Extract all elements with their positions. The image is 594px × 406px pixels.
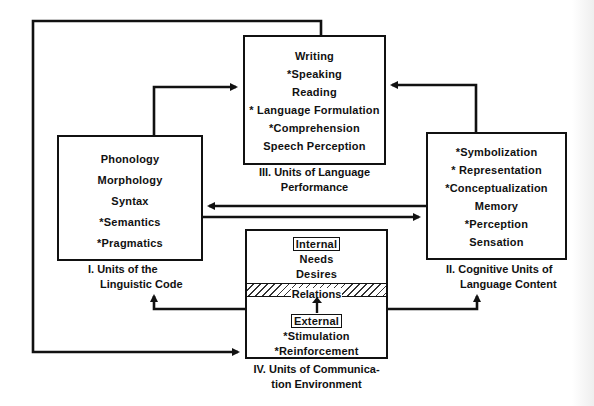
internal-section: Internal Needs Desires: [247, 237, 386, 282]
caption-line-1: III. Units of Language: [243, 165, 386, 180]
item-writing: Writing: [245, 47, 384, 65]
item-semantics: *Semantics: [59, 212, 201, 233]
item-reading: Reading: [245, 83, 384, 101]
caption-line-2: Language Content: [446, 277, 557, 292]
arrow-up-icon: [311, 297, 323, 313]
caption-line-1: IV. Units of Communica-: [245, 362, 388, 377]
item-syntax: Syntax: [59, 191, 201, 212]
caption-language-performance: III. Units of Language Performance: [243, 165, 386, 195]
linguistic-items: Phonology Morphology Syntax *Semantics *…: [59, 149, 201, 254]
item-stimulation: *Stimulation: [247, 329, 386, 344]
box-linguistic-code: Phonology Morphology Syntax *Semantics *…: [57, 135, 203, 261]
arrow-IV-to-I: [154, 296, 245, 309]
external-section: External *Stimulation *Reinforcement: [247, 314, 386, 359]
item-symbolization: *Symbolization: [428, 143, 565, 161]
caption-line-2: Performance: [243, 180, 386, 195]
box-language-performance: Writing *Speaking Reading * Language For…: [243, 35, 386, 165]
box-communication-environment: Internal Needs Desires Relations Externa…: [245, 229, 388, 359]
item-needs: Needs: [247, 252, 386, 267]
item-representation: * Representation: [428, 161, 565, 179]
relations-band: Relations: [247, 283, 386, 297]
item-language-formulation: * Language Formulation: [245, 101, 384, 119]
caption-line-2: Linguistic Code: [88, 277, 183, 292]
item-sensation: Sensation: [428, 233, 565, 251]
caption-communication-environment: IV. Units of Communica- tion Environment: [245, 362, 388, 392]
arrow-I-to-III: [154, 87, 236, 135]
caption-line-1: I. Units of the: [88, 262, 183, 277]
caption-line-1: II. Cognitive Units of: [446, 262, 557, 277]
item-speech-perception: Speech Perception: [245, 137, 384, 155]
caption-line-2: tion Environment: [245, 377, 388, 392]
item-reinforcement: *Reinforcement: [247, 344, 386, 359]
caption-linguistic-code: I. Units of the Linguistic Code: [88, 262, 183, 292]
performance-items: Writing *Speaking Reading * Language For…: [245, 47, 384, 155]
item-memory: Memory: [428, 197, 565, 215]
item-phonology: Phonology: [59, 149, 201, 170]
internal-heading: Internal: [293, 237, 340, 251]
item-conceptualization: *Conceptualization: [428, 179, 565, 197]
item-perception: *Perception: [428, 215, 565, 233]
arrow-II-to-III: [392, 85, 476, 132]
item-desires: Desires: [247, 267, 386, 282]
item-comprehension: *Comprehension: [245, 119, 384, 137]
item-morphology: Morphology: [59, 170, 201, 191]
cognitive-items: *Symbolization * Representation *Concept…: [428, 143, 565, 251]
item-pragmatics: *Pragmatics: [59, 233, 201, 254]
caption-cognitive-units: II. Cognitive Units of Language Content: [446, 262, 557, 292]
box-cognitive-units: *Symbolization * Representation *Concept…: [426, 132, 567, 260]
item-speaking: *Speaking: [245, 65, 384, 83]
arrow-IV-to-II: [387, 296, 477, 309]
external-heading: External: [291, 314, 342, 328]
